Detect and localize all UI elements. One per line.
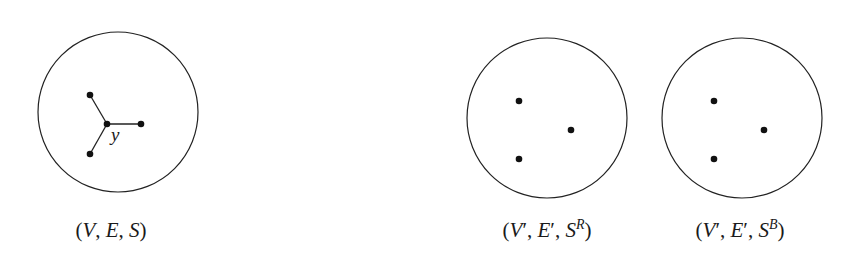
vertex — [87, 151, 94, 158]
caption-red: (V′, E′, SR) — [503, 217, 592, 242]
vertex — [711, 98, 718, 105]
panel-original-graph: y (V, E, S) — [38, 32, 198, 242]
vertex — [516, 98, 523, 105]
panel-blue-graph: (V′, E′, SB) — [662, 38, 822, 242]
vertex — [87, 92, 94, 99]
caption-blue: (V′, E′, SB) — [696, 217, 785, 242]
vertex-label-y: y — [109, 124, 120, 145]
caption-original: (V, E, S) — [75, 218, 146, 242]
vertex-y — [104, 121, 111, 128]
region-circle — [662, 38, 822, 198]
vertex — [516, 156, 523, 163]
graph-decomposition-diagram: y (V, E, S) (V′, E′, SR) (V′, E′, SB) — [0, 0, 867, 258]
edge-y-a — [90, 95, 107, 124]
vertex — [711, 156, 718, 163]
region-circle — [467, 38, 627, 198]
region-circle — [38, 32, 198, 192]
panel-red-graph: (V′, E′, SR) — [467, 38, 627, 242]
vertices — [516, 98, 575, 163]
vertex — [761, 127, 768, 134]
vertex — [138, 121, 145, 128]
vertices — [711, 98, 768, 163]
vertex — [568, 127, 575, 134]
edge-y-c — [90, 124, 107, 154]
